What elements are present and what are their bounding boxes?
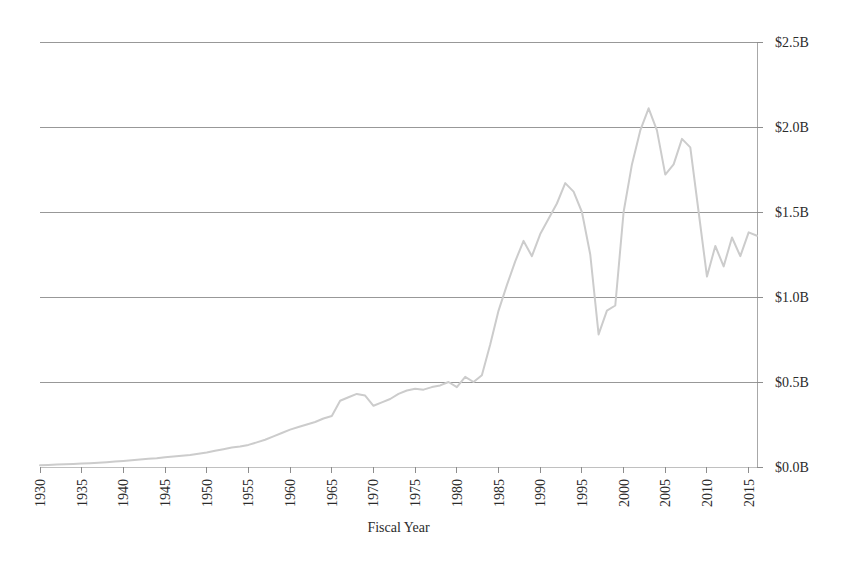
x-tick-label: 1995 xyxy=(575,479,590,507)
y-tick-label: $0.0B xyxy=(775,460,809,475)
y-tick-marks-group xyxy=(757,42,763,467)
y-tick-label: $2.5B xyxy=(775,35,809,50)
x-tick-marks-group xyxy=(40,467,749,473)
y-tick-label: $1.0B xyxy=(775,290,809,305)
x-tick-label: 2000 xyxy=(617,479,632,507)
x-tick-label: 1990 xyxy=(533,479,548,507)
x-tick-label: 1940 xyxy=(116,479,131,507)
line-chart: $0.0B$0.5B$1.0B$1.5B$2.0B$2.5B 193019351… xyxy=(0,0,843,569)
gridlines-group xyxy=(40,42,757,467)
y-tick-label: $0.5B xyxy=(775,375,809,390)
y-tick-labels-group: $0.0B$0.5B$1.0B$1.5B$2.0B$2.5B xyxy=(775,35,809,475)
x-tick-label: 1935 xyxy=(75,479,90,507)
y-tick-label: $2.0B xyxy=(775,120,809,135)
data-line-group xyxy=(40,108,757,465)
x-tick-label: 1950 xyxy=(200,479,215,507)
x-axis-title: Fiscal Year xyxy=(367,520,430,535)
x-tick-label: 2015 xyxy=(742,479,757,507)
x-tick-labels-group: 1930193519401945195019551960196519701975… xyxy=(33,479,757,507)
chart-container: $0.0B$0.5B$1.0B$1.5B$2.0B$2.5B 193019351… xyxy=(0,0,843,569)
x-tick-label: 2010 xyxy=(700,479,715,507)
x-tick-label: 1985 xyxy=(492,479,507,507)
x-tick-label: 1945 xyxy=(158,479,173,507)
data-series-line xyxy=(40,108,757,465)
x-tick-label: 1975 xyxy=(408,479,423,507)
y-tick-label: $1.5B xyxy=(775,205,809,220)
x-tick-label: 1965 xyxy=(325,479,340,507)
x-tick-label: 1980 xyxy=(450,479,465,507)
x-tick-label: 1955 xyxy=(241,479,256,507)
x-tick-label: 1930 xyxy=(33,479,48,507)
x-tick-label: 1970 xyxy=(366,479,381,507)
x-tick-label: 2005 xyxy=(658,479,673,507)
x-tick-label: 1960 xyxy=(283,479,298,507)
